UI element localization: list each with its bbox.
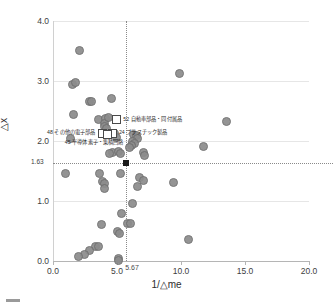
annotation-label-48: 48 その他の電子部品: [0, 130, 95, 135]
intersection-square-marker: [123, 160, 129, 166]
chart-figure: △x 4.0 3.0 2.0 1.0 0.0 0.0 5.0 10.0 15.0…: [0, 0, 333, 306]
data-point: [222, 117, 231, 126]
data-point: [114, 256, 123, 265]
data-point: [94, 242, 103, 251]
data-point: [74, 252, 83, 261]
data-point: [133, 182, 142, 191]
annotation-label-45: 45 半導体素子・集積回路: [65, 140, 124, 145]
data-point: [116, 149, 125, 158]
y-tick-label: 1.0: [23, 196, 49, 206]
data-point: [107, 94, 116, 103]
x-tick-label: 20.0: [294, 266, 324, 276]
data-point: [169, 178, 178, 187]
y-tick-label: 3.0: [23, 76, 49, 86]
caption-swatch: [6, 299, 20, 302]
annotation-label-52: 52 自動車部品・同付属品: [123, 117, 182, 122]
data-point: [128, 199, 137, 208]
data-point: [87, 97, 96, 106]
data-point: [140, 151, 149, 160]
data-point: [184, 235, 193, 244]
gridline: [53, 81, 309, 82]
x-tick-label: 15.0: [230, 266, 260, 276]
y-tick-label: 4.0: [23, 16, 49, 26]
x-axis-title: 1/△me: [0, 279, 333, 290]
y-tick-label: 2.0: [23, 136, 49, 146]
gridline: [53, 21, 309, 22]
data-point: [126, 219, 135, 228]
x-axis-line: [53, 261, 309, 262]
data-point: [100, 184, 109, 193]
data-point: [75, 46, 84, 55]
data-point: [175, 69, 184, 78]
data-point: [117, 209, 126, 218]
data-point: [71, 78, 80, 87]
data-point: [69, 110, 78, 119]
data-point: [116, 169, 125, 178]
data-point: [115, 229, 124, 238]
x-tick-label: 10.0: [166, 266, 196, 276]
gridline: [53, 201, 309, 202]
y-axis-line: [53, 21, 54, 261]
highlight-marker-45: [103, 130, 112, 139]
annotation-label-24: 24 プラスチック製品: [119, 130, 167, 135]
figure-caption: [6, 297, 326, 303]
y-tick-label: 0.0: [23, 256, 49, 266]
y-threshold-label: 1.63: [31, 158, 44, 165]
x-tick-label: 0.0: [38, 266, 68, 276]
data-point: [97, 220, 106, 229]
horizontal-reference-line: [53, 163, 333, 164]
highlight-marker-52: [112, 115, 121, 124]
data-point: [61, 169, 70, 178]
data-point: [105, 149, 114, 158]
data-point: [199, 142, 208, 151]
data-point: [125, 143, 134, 152]
x-threshold-label: 5.67: [117, 264, 147, 271]
x-tick-mark: [309, 261, 310, 265]
